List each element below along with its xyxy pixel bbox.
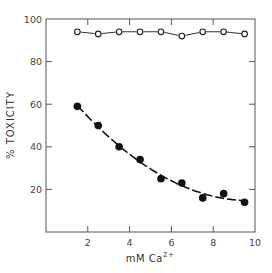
filled-circle-point	[241, 198, 249, 206]
filled-circle-point	[157, 175, 165, 183]
open-circle-point	[137, 29, 143, 35]
open-circle-point	[242, 31, 248, 37]
open-circle-point	[116, 29, 122, 35]
x-tick-label: 2	[85, 237, 91, 248]
connector-line	[185, 32, 199, 35]
connector-line	[102, 32, 116, 33]
series-open-circles	[75, 29, 248, 39]
filled-circle-point	[220, 190, 228, 198]
x-tick-label: 4	[127, 237, 133, 248]
fitted-curve	[77, 105, 244, 200]
tick-labels: 24681020406080100	[24, 14, 261, 249]
y-axis-label: % TOXICITY	[5, 91, 16, 159]
open-circle-point	[200, 29, 206, 35]
toxicity-chart: 24681020406080100 % TOXICITY mM Ca2+	[0, 0, 272, 273]
open-circle-point	[158, 29, 164, 35]
connector-line	[164, 32, 178, 35]
x-axis-label: mM Ca2+	[126, 251, 175, 264]
y-tick-label: 100	[24, 14, 42, 25]
filled-circle-point	[199, 194, 207, 202]
open-circle-point	[75, 29, 81, 35]
filled-circle-point	[115, 143, 123, 151]
filled-circle-point	[178, 179, 186, 187]
plot-frame	[46, 19, 255, 232]
filled-circle-point	[94, 122, 102, 130]
connector-line	[81, 32, 95, 33]
axis-ticks	[46, 19, 255, 232]
open-circle-point	[179, 33, 185, 39]
open-circle-point	[221, 29, 227, 35]
connector-line	[227, 32, 241, 33]
open-circle-point	[95, 31, 101, 37]
y-tick-label: 60	[30, 99, 42, 110]
y-tick-label: 20	[30, 184, 42, 195]
x-tick-label: 6	[168, 237, 174, 248]
x-tick-label: 8	[210, 237, 216, 248]
y-tick-label: 40	[30, 141, 42, 152]
x-tick-label: 10	[249, 237, 261, 248]
filled-circle-point	[74, 103, 82, 111]
series-filled-circles	[74, 103, 249, 206]
filled-circle-point	[136, 156, 144, 164]
y-tick-label: 80	[30, 56, 42, 67]
